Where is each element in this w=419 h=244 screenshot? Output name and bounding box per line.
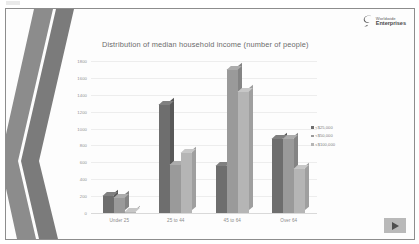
bar-top xyxy=(125,208,140,212)
bar xyxy=(272,139,283,213)
bar-face xyxy=(103,196,114,213)
legend-swatch xyxy=(311,135,314,138)
x-axis-tick-label: 25 to 44 xyxy=(167,218,184,223)
legend-label: <$50,000 xyxy=(315,133,333,138)
bar-side xyxy=(305,163,309,210)
bar xyxy=(238,91,249,213)
chart-bars: Under 2525 to 4445 to 64Over 64 xyxy=(91,61,317,213)
bar-side xyxy=(249,86,253,210)
bar-face xyxy=(181,153,192,213)
chart-title: Distribution of median household income … xyxy=(102,40,338,49)
legend-swatch xyxy=(311,143,314,146)
bar xyxy=(294,169,305,213)
y-axis-tick-label: 400 xyxy=(72,177,87,182)
legend-label: <$100,000 xyxy=(315,142,335,147)
gridline xyxy=(91,213,317,214)
chevron-ribbon-decoration xyxy=(6,9,81,239)
screenshot-root: Worldwide Enterprises Distribution of me… xyxy=(0,0,419,244)
bar xyxy=(114,197,125,213)
bar-face xyxy=(283,139,294,213)
bar xyxy=(216,166,227,213)
bar-face xyxy=(170,164,181,213)
y-axis-tick-label: 0 xyxy=(72,211,87,216)
x-axis-tick-label: Under 25 xyxy=(109,218,129,223)
legend-item: <$25,000 xyxy=(311,125,335,130)
bar-face xyxy=(216,166,227,213)
bar xyxy=(181,153,192,213)
swoosh-mark-icon xyxy=(363,15,374,29)
x-axis-tick-label: Over 64 xyxy=(280,218,297,223)
legend-item: <$100,000 xyxy=(311,142,335,147)
x-axis-tick-label: 45 to 64 xyxy=(224,218,241,223)
y-axis-tick-label: 1400 xyxy=(72,92,87,97)
legend-item: <$50,000 xyxy=(311,133,335,138)
bar-side xyxy=(192,147,196,210)
y-axis-tick-label: 1600 xyxy=(72,75,87,80)
bar-face xyxy=(159,104,170,213)
bar-face xyxy=(272,139,283,213)
y-axis-tick-label: 1800 xyxy=(72,59,87,64)
play-triangle-icon xyxy=(392,222,399,230)
bar xyxy=(159,104,170,213)
chart-legend: <$25,000<$50,000<$100,000 xyxy=(311,125,335,147)
play-button[interactable] xyxy=(384,218,406,233)
bar-group: Under 25 xyxy=(91,61,148,213)
bar xyxy=(125,212,136,213)
bar xyxy=(170,164,181,213)
company-logo: Worldwide Enterprises xyxy=(363,15,406,29)
bar-group: 45 to 64 xyxy=(204,61,261,213)
bar-group: 25 to 44 xyxy=(148,61,205,213)
bar-group: Over 64 xyxy=(261,61,318,213)
legend-swatch xyxy=(311,126,314,129)
y-axis-tick-label: 1000 xyxy=(72,126,87,131)
bar xyxy=(227,69,238,213)
logo-line-2: Enterprises xyxy=(376,21,406,27)
scan-artifact xyxy=(6,1,20,5)
y-axis-tick-label: 800 xyxy=(72,143,87,148)
bar-face xyxy=(114,197,125,213)
bar-face xyxy=(125,212,136,213)
bar-face xyxy=(238,91,249,213)
y-axis-tick-label: 200 xyxy=(72,194,87,199)
y-axis-tick-label: 1200 xyxy=(72,109,87,114)
presentation-slide: Worldwide Enterprises Distribution of me… xyxy=(5,8,415,240)
bar-face xyxy=(227,69,238,213)
bar-face xyxy=(294,169,305,213)
bar xyxy=(103,196,114,213)
chart-plot-area: 180016001400120010008006004002000 Under … xyxy=(72,61,317,213)
y-axis-tick-label: 600 xyxy=(72,160,87,165)
bar xyxy=(283,139,294,213)
legend-label: <$25,000 xyxy=(315,125,333,130)
